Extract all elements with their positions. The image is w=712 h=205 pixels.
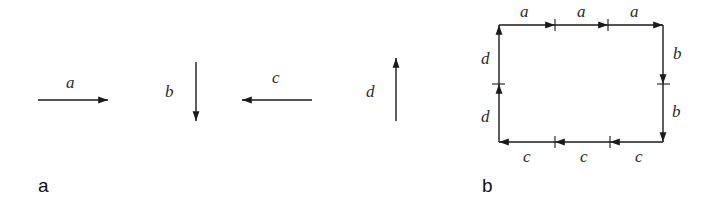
vector-c-label: c [272, 68, 280, 87]
right-label-1: b [673, 44, 682, 63]
vector-b: b [165, 62, 196, 121]
top-edge: a a a [499, 2, 663, 31]
panel-b-caption: b [482, 175, 493, 196]
left-label-2: d [481, 107, 490, 126]
right-edge: b b [657, 25, 682, 142]
top-label-1: a [520, 2, 529, 21]
panel-a: a b c d a [38, 58, 396, 196]
vector-diagram: a b c d a a a a [0, 0, 712, 205]
bottom-label-2: c [580, 147, 588, 166]
left-edge: d d [481, 25, 505, 142]
top-label-2: a [577, 2, 586, 21]
bottom-label-1: c [523, 147, 531, 166]
vector-a: a [38, 73, 108, 100]
vector-c: c [242, 68, 312, 100]
bottom-edge: c c c [499, 136, 663, 166]
panel-b: a a a b b c c c d d [481, 2, 682, 196]
bottom-label-3: c [635, 147, 643, 166]
vector-a-label: a [66, 73, 75, 92]
panel-a-caption: a [38, 175, 49, 196]
vector-b-label: b [165, 82, 174, 101]
vector-d: d [366, 58, 396, 121]
left-label-1: d [481, 49, 490, 68]
right-label-2: b [672, 102, 681, 121]
vector-d-label: d [366, 82, 375, 101]
top-label-3: a [630, 2, 639, 21]
